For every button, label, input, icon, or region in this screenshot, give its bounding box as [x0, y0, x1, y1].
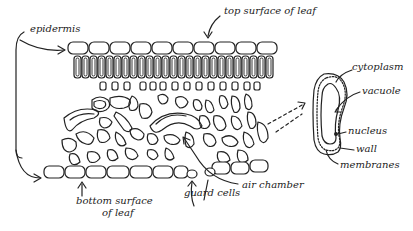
small-cell-row [100, 82, 260, 90]
epidermis-arrow-bottom [16, 150, 40, 178]
upper-epidermis [68, 42, 277, 54]
label-nucleus: nucleus [348, 126, 387, 136]
palisade-layer [74, 56, 273, 78]
label-top-surface: top surface of leaf [224, 6, 316, 16]
lower-epidermis [44, 160, 268, 178]
epidermis-bracket [16, 32, 24, 158]
label-guard-cells: guard cells [184, 188, 240, 198]
label-bottom-surface-2: of leaf [102, 208, 134, 218]
label-vacuole: vacuole [362, 86, 401, 96]
label-bottom-surface-1: bottom surface [76, 196, 153, 206]
label-epidermis: epidermis [30, 24, 80, 34]
label-membranes: membranes [340, 160, 400, 170]
cell-detail [313, 74, 347, 155]
spongy-mesophyll [62, 94, 268, 165]
epidermis-arrow-top [20, 40, 64, 50]
label-air-chamber: air chamber [242, 180, 304, 190]
leaf-cross-section-diagram: epidermis top surface of leaf bottom sur… [0, 0, 413, 231]
label-wall: wall [356, 144, 377, 154]
label-cytoplasm: cytoplasm [352, 62, 403, 72]
